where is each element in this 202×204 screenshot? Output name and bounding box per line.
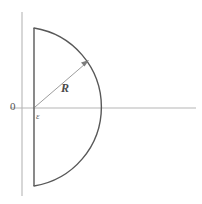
radius-label: R — [61, 82, 69, 94]
figure-canvas: 0 ε R — [0, 0, 202, 204]
origin-label: 0 — [10, 101, 16, 112]
epsilon-label: ε — [36, 112, 40, 121]
radius-arrow-line — [35, 64, 85, 107]
contour-arc — [34, 28, 101, 186]
contour-diagram-svg — [0, 0, 202, 204]
